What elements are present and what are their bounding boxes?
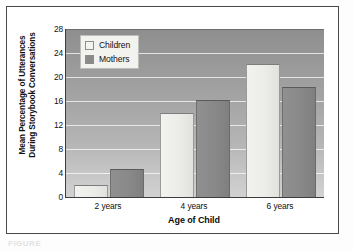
bar-mothers-6-years	[282, 87, 316, 197]
legend-swatch-mothers-icon	[85, 55, 94, 64]
y-tick-label: 20	[41, 72, 63, 82]
figure-caption: FIGURE	[8, 239, 41, 249]
figure-page: Mean Percentage of Utterances During Sto…	[0, 0, 353, 251]
gridline	[66, 77, 324, 78]
legend-swatch-children-icon	[85, 41, 94, 50]
y-axis-title: Mean Percentage of Utterances During Sto…	[13, 15, 43, 175]
x-axis-tick-labels: 2 years4 years6 years	[65, 201, 323, 215]
y-tick-mark	[65, 197, 66, 198]
y-tick-label: 12	[41, 120, 63, 130]
y-tick-label: 4	[41, 168, 63, 178]
figure-frame: Mean Percentage of Utterances During Sto…	[6, 6, 339, 234]
y-tick-mark	[65, 101, 66, 102]
y-tick-label: 16	[41, 96, 63, 106]
y-tick-label: 28	[41, 24, 63, 34]
y-tick-mark	[65, 77, 66, 78]
y-tick-mark	[65, 53, 66, 54]
chart-legend: Children Mothers	[80, 35, 139, 69]
y-axis-title-line-2: During Storybook Conversations	[28, 32, 39, 157]
legend-item-children: Children	[85, 39, 130, 51]
y-tick-label: 8	[41, 144, 63, 154]
plot-area: Children Mothers	[65, 29, 324, 198]
x-tick-label: 6 years	[267, 201, 294, 211]
y-tick-mark	[65, 173, 66, 174]
bar-mothers-4-years	[196, 100, 230, 197]
y-tick-label: 24	[41, 48, 63, 58]
y-axis-title-line-1: Mean Percentage of Utterances	[18, 35, 29, 154]
plot-border-top	[66, 29, 324, 30]
y-tick-mark	[65, 125, 66, 126]
y-tick-mark	[65, 29, 66, 30]
bar-children-6-years	[246, 64, 280, 197]
legend-label-children: Children	[99, 40, 130, 50]
y-axis-tick-labels: 0481216202428	[41, 29, 63, 197]
x-axis-title: Age of Child	[65, 215, 323, 225]
x-tick-label: 2 years	[95, 201, 122, 211]
x-tick-label: 4 years	[181, 201, 208, 211]
legend-item-mothers: Mothers	[85, 53, 130, 65]
y-tick-mark	[65, 149, 66, 150]
bar-children-4-years	[160, 113, 194, 197]
bar-children-2-years	[74, 185, 108, 197]
legend-label-mothers: Mothers	[99, 54, 129, 64]
y-tick-label: 0	[41, 192, 63, 202]
bar-chart: Mean Percentage of Utterances During Sto…	[7, 7, 338, 233]
bar-mothers-2-years	[110, 169, 144, 197]
